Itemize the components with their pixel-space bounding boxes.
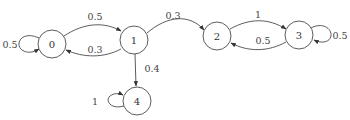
markov-chain-diagram: 0.5 0.5 0.3 0.3 0.4 1 0.5 0.5 1 0 1 2 (0, 0, 350, 120)
node-label-0: 0 (49, 39, 55, 50)
node-label-1: 1 (131, 35, 137, 46)
node-label-2: 2 (214, 31, 220, 42)
node-4: 4 (123, 87, 151, 115)
edge-1-4 (135, 54, 136, 86)
node-0: 0 (38, 30, 66, 58)
edge-label-1-2: 0.3 (165, 10, 180, 21)
node-label-3: 3 (296, 30, 302, 41)
edge-label-3-2: 0.5 (255, 35, 270, 46)
edge-1-2 (147, 19, 204, 33)
edge-2-3 (230, 21, 286, 29)
edge-0-0 (19, 36, 39, 53)
edge-label-0-0: 0.5 (2, 39, 17, 50)
node-3: 3 (285, 21, 313, 49)
edge-0-1 (64, 25, 121, 36)
edge-label-2-3: 1 (255, 9, 261, 20)
edge-3-3 (311, 26, 331, 43)
node-1: 1 (120, 26, 148, 54)
edge-label-0-1: 0.5 (87, 11, 102, 22)
edge-label-1-0: 0.3 (87, 44, 102, 55)
edge-label-3-3: 0.5 (332, 30, 347, 41)
node-2: 2 (203, 22, 231, 50)
edge-4-4 (108, 94, 124, 107)
edge-label-1-4: 0.4 (144, 63, 159, 74)
node-label-4: 4 (134, 96, 140, 107)
edge-label-4-4: 1 (92, 96, 98, 107)
